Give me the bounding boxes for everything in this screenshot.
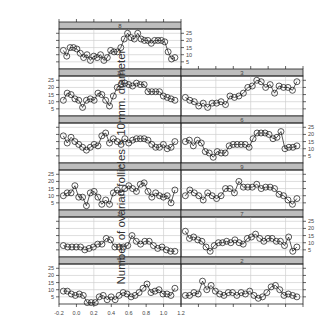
panel-7: 7510152025 <box>181 210 314 257</box>
y-tick-label: 10 <box>48 99 54 105</box>
y-tick-label: 5 <box>51 200 54 206</box>
x-tick-label: 0.4 <box>107 310 115 316</box>
x-tick-label: 0.2 <box>90 310 98 316</box>
y-tick-label: 5 <box>51 106 54 112</box>
panel-10: 10510152025 <box>48 69 181 116</box>
y-tick-label: 20 <box>308 225 314 231</box>
y-tick-label: 20 <box>48 84 54 90</box>
panel-6: 6510152025 <box>181 116 314 163</box>
y-tick-label: 15 <box>308 233 314 239</box>
y-tick-label: 20 <box>48 272 54 278</box>
x-tick-label: 0.6 <box>125 310 133 316</box>
y-tick-label: 10 <box>48 193 54 199</box>
series-line <box>185 132 297 158</box>
panel-9: 9 <box>181 163 306 210</box>
y-tick-label: 15 <box>308 139 314 145</box>
x-tick-label: 0.0 <box>73 310 81 316</box>
panel-5: 5510152025 <box>48 163 181 210</box>
y-tick-label: 10 <box>48 287 54 293</box>
y-tick-label: 25 <box>48 265 54 271</box>
series-line <box>185 231 297 251</box>
y-tick-label: 25 <box>186 30 192 36</box>
y-axis-label: Number of ovarian follicles > 10 mm. dia… <box>115 50 127 285</box>
y-tick-label: 10 <box>308 146 314 152</box>
y-tick-label: 20 <box>308 131 314 137</box>
trellis-chart: 8510152025105101520253165101520255510152… <box>0 0 330 334</box>
y-tick-label: 15 <box>186 45 192 51</box>
y-tick-label: 25 <box>308 124 314 130</box>
panel-3: 3 <box>181 66 306 116</box>
x-tick-label: -0.2 <box>54 310 63 316</box>
y-tick-label: 20 <box>48 178 54 184</box>
x-tick-label: 1.2 <box>177 310 185 316</box>
y-tick-label: 5 <box>308 153 311 159</box>
x-tick-label: 0.8 <box>142 310 150 316</box>
x-tick-label: 1.0 <box>160 310 168 316</box>
y-tick-label: 10 <box>308 240 314 246</box>
y-tick-label: 25 <box>308 218 314 224</box>
y-tick-label: 5 <box>51 294 54 300</box>
y-tick-label: 25 <box>48 77 54 83</box>
y-tick-label: 15 <box>48 280 54 286</box>
y-tick-label: 5 <box>308 247 311 253</box>
y-tick-label: 10 <box>186 52 192 58</box>
y-tick-label: 15 <box>48 186 54 192</box>
y-tick-label: 25 <box>48 171 54 177</box>
panel-2: 2 <box>181 257 306 307</box>
y-tick-label: 20 <box>186 37 192 43</box>
y-tick-label: 15 <box>48 92 54 98</box>
y-tick-label: 5 <box>186 59 189 65</box>
